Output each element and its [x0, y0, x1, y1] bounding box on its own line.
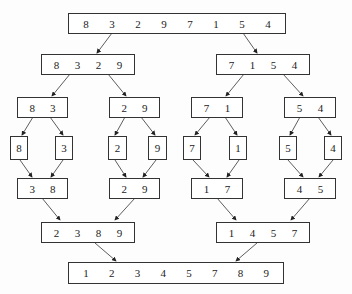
array-element: 4	[291, 59, 299, 71]
array-box-l3-7: 4	[324, 136, 342, 160]
array-element: 1	[234, 142, 242, 154]
array-element: 9	[154, 142, 162, 154]
array-element: 7	[188, 142, 196, 154]
array-box-l5-1: 1457	[216, 222, 310, 243]
array-element: 5	[317, 183, 325, 195]
array-element: 8	[49, 183, 57, 195]
array-element: 1	[203, 183, 211, 195]
array-element: 8	[53, 59, 61, 71]
array-element: 9	[116, 227, 124, 239]
array-element: 7	[186, 18, 194, 30]
array-element: 1	[228, 227, 236, 239]
array-element: 1	[82, 267, 90, 279]
array-element: 7	[291, 227, 299, 239]
array-element: 8	[28, 102, 36, 114]
array-element: 2	[114, 142, 122, 154]
array-element: 1	[224, 102, 232, 114]
array-element: 3	[74, 59, 82, 71]
array-element: 4	[249, 227, 257, 239]
array-box-l2-2: 71	[191, 97, 243, 118]
array-box-l4-0: 38	[17, 178, 68, 199]
array-box-l2-3: 54	[284, 97, 336, 118]
array-box-l3-5: 1	[229, 136, 247, 160]
array-element: 2	[108, 267, 116, 279]
array-box-l5-0: 2389	[41, 222, 135, 243]
array-element: 8	[15, 142, 23, 154]
array-box-l2-0: 83	[17, 97, 68, 118]
array-element: 4	[296, 183, 304, 195]
array-box-l4-2: 17	[191, 178, 243, 199]
array-box-l3-4: 7	[183, 136, 201, 160]
arrows-layer	[0, 0, 352, 294]
array-box-l3-6: 5	[279, 136, 297, 160]
array-element: 8	[236, 267, 244, 279]
array-box-l2-1: 29	[109, 97, 160, 118]
array-element: 3	[49, 102, 57, 114]
array-element: 2	[120, 102, 128, 114]
array-box-l3-2: 2	[108, 136, 127, 160]
array-box-l1-1: 7154	[216, 54, 310, 75]
array-element: 1	[249, 59, 257, 71]
array-element: 1	[212, 18, 220, 30]
array-element: 8	[82, 18, 90, 30]
array-box-l6-0: 12345789	[68, 262, 284, 284]
array-element: 8	[95, 227, 103, 239]
array-element: 4	[159, 267, 167, 279]
array-element: 3	[108, 18, 116, 30]
array-element: 7	[224, 183, 232, 195]
array-element: 5	[270, 59, 278, 71]
array-element: 7	[211, 267, 219, 279]
array-element: 9	[160, 18, 168, 30]
array-box-l3-0: 8	[10, 136, 28, 160]
array-element: 5	[238, 18, 246, 30]
array-element: 9	[116, 59, 124, 71]
array-element: 9	[262, 267, 270, 279]
array-box-l3-1: 3	[55, 136, 73, 160]
array-element: 7	[228, 59, 236, 71]
array-element: 2	[120, 183, 128, 195]
array-element: 3	[60, 142, 68, 154]
array-element: 7	[203, 102, 211, 114]
array-box-l3-3: 9	[148, 136, 167, 160]
array-element: 4	[264, 18, 272, 30]
array-element: 5	[284, 142, 292, 154]
array-element: 2	[53, 227, 61, 239]
array-element: 4	[329, 142, 337, 154]
array-element: 3	[133, 267, 141, 279]
array-box-l0-0: 83297154	[68, 13, 286, 34]
array-element: 3	[74, 227, 82, 239]
array-element: 5	[185, 267, 193, 279]
array-box-l4-3: 45	[284, 178, 336, 199]
array-element: 5	[296, 102, 304, 114]
array-element: 5	[270, 227, 278, 239]
array-element: 9	[141, 102, 149, 114]
array-box-l1-0: 8329	[41, 54, 135, 75]
array-element: 2	[134, 18, 142, 30]
array-box-l4-1: 29	[109, 178, 160, 199]
array-element: 4	[317, 102, 325, 114]
array-element: 2	[95, 59, 103, 71]
array-element: 3	[28, 183, 36, 195]
array-element: 9	[141, 183, 149, 195]
